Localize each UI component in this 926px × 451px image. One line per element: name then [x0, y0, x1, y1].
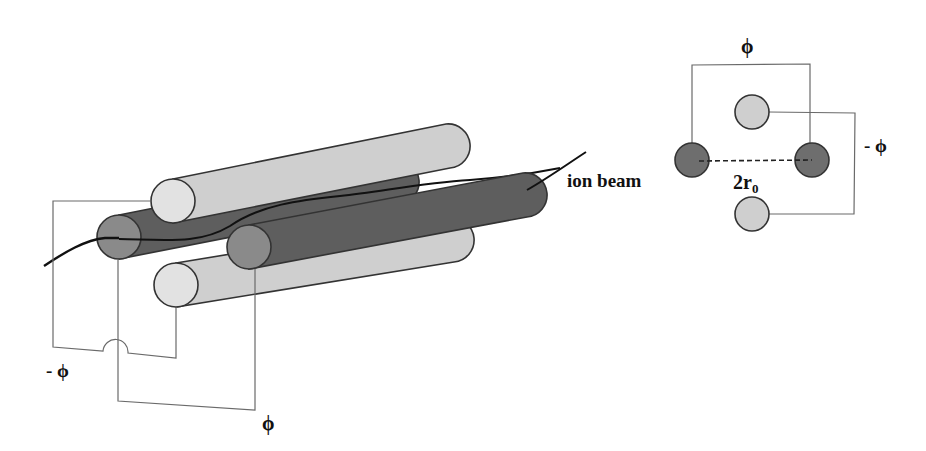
ion-beam-label: ion beam [567, 170, 642, 191]
rod-assembly [44, 124, 586, 307]
quadrupole-diagram: ion beam - ϕ ϕ ϕ - ϕ 2r0 [0, 0, 926, 451]
phi-label-top-right: ϕ [741, 35, 753, 58]
bottom-light-electrode [735, 197, 769, 231]
minus-phi-label-right: - ϕ [864, 135, 887, 156]
cross-section [675, 64, 855, 231]
left-dark-electrode [675, 143, 709, 177]
diameter-dashed-line [699, 160, 812, 161]
two-r0-label: 2r0 [733, 171, 758, 196]
top-light-electrode [735, 95, 769, 129]
phi-label-bottom: ϕ [262, 412, 274, 435]
minus-phi-label-left: - ϕ [46, 360, 69, 381]
